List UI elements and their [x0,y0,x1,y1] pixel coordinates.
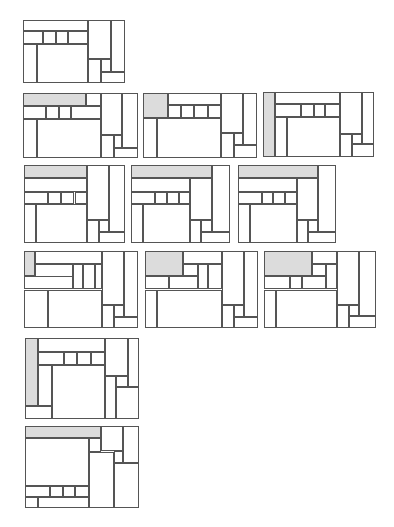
region [99,232,125,243]
region [168,105,181,118]
region [234,317,258,328]
region [89,438,102,452]
region [24,192,48,204]
region [23,20,88,31]
region [114,463,139,508]
region [290,276,302,290]
region [116,387,139,419]
region [102,251,125,305]
region [23,44,37,83]
region [71,106,101,119]
region [208,264,222,289]
layout-panel-p7 [238,165,336,243]
region [145,276,169,290]
region [273,192,285,204]
region [143,118,157,158]
region [222,305,234,328]
region [312,264,325,276]
region [95,264,102,289]
region [37,44,88,83]
region [221,93,244,133]
region [105,376,116,419]
region [337,305,349,328]
region [37,119,101,158]
region [234,145,257,158]
region [143,204,191,243]
region [198,264,208,289]
region [131,192,155,204]
region [275,117,287,157]
shaded-region [263,92,275,157]
region [238,192,262,204]
region [128,338,139,387]
shaded-region [264,251,312,276]
region [359,251,376,316]
region [87,220,99,243]
region [297,220,308,243]
region [308,220,319,232]
layout-panel-p2 [23,93,138,158]
region [25,438,89,486]
region [179,192,191,204]
region [285,192,297,204]
region [302,276,326,290]
region [238,178,297,191]
shaded-region [25,426,101,438]
region [75,192,87,204]
region [243,93,257,145]
region [264,276,290,290]
region [116,376,127,387]
region [52,365,104,419]
layout-panel-p4 [263,92,374,157]
region [59,106,72,119]
region [86,93,101,106]
region [312,251,337,264]
region [64,352,78,365]
region [24,178,87,191]
region [157,118,221,158]
region [349,305,359,316]
region [88,59,100,83]
region [114,451,123,462]
shaded-region [24,165,87,178]
region [222,251,245,305]
region [38,352,64,365]
region [48,290,102,329]
region [83,264,94,289]
region [234,305,244,317]
region [276,290,336,329]
region [201,232,230,243]
region [352,134,362,144]
region [275,92,339,104]
shaded-region [25,338,38,406]
shaded-region [145,251,183,276]
region [36,204,87,243]
shaded-region [23,93,86,106]
region [155,192,167,204]
region [244,251,258,317]
region [25,486,50,497]
region [314,104,325,117]
region [24,276,73,290]
region [38,497,89,508]
region [250,204,297,243]
region [201,220,212,232]
region [50,486,63,497]
region [234,133,243,145]
region [340,134,352,157]
shaded-region [238,165,318,178]
region [297,178,319,219]
region [349,316,376,328]
region [75,486,89,497]
region [123,426,139,463]
region [301,104,314,117]
region [89,452,114,508]
layout-panel-p3 [143,93,257,158]
region [101,135,114,158]
region [326,264,337,289]
region [124,251,138,317]
layout-panel-p9 [145,251,258,328]
region [208,105,221,118]
region [24,290,48,329]
region [362,92,374,144]
